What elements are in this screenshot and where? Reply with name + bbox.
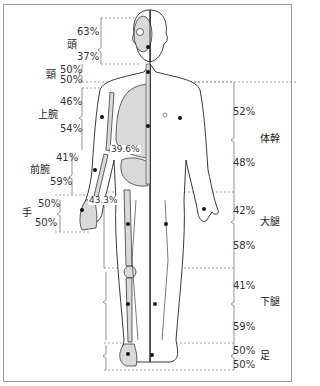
- forearm-bottom-pct: 59%: [50, 177, 72, 187]
- forearm-label: 前腕: [30, 165, 50, 175]
- lower-leg-bottom-pct: 59%: [233, 322, 255, 332]
- head-top-pct: 63%: [77, 27, 99, 37]
- lower-leg-top-pct: 41%: [233, 281, 255, 291]
- hand-label: 手: [22, 208, 32, 218]
- hip-label: 43.3%: [88, 196, 119, 205]
- upper-arm-bottom-pct: 54%: [60, 124, 82, 134]
- forearm-top-pct: 41%: [56, 153, 78, 163]
- foot-top-pct: 50%: [233, 346, 255, 356]
- head-bottom-pct: 37%: [77, 52, 99, 62]
- foot-bottom-pct: 50%: [233, 360, 255, 370]
- neck-bottom-pct: 50%: [60, 75, 82, 85]
- thigh-top-pct: 42%: [233, 206, 255, 216]
- lower-leg-label: 下腿: [260, 297, 280, 307]
- trunk-upper-label: 39.6%: [110, 145, 141, 154]
- upper-arm-label: 上腕: [38, 110, 58, 120]
- thigh-label: 大腿: [260, 217, 280, 227]
- trunk-top-pct: 52%: [233, 107, 255, 117]
- neck-label: 頸: [46, 70, 56, 80]
- foot-label: 足: [260, 351, 270, 361]
- trunk-label: 体幹: [260, 134, 280, 144]
- upper-arm-top-pct: 46%: [60, 97, 82, 107]
- hand-top-pct: 50%: [38, 199, 60, 209]
- trunk-bottom-pct: 48%: [233, 158, 255, 168]
- thigh-bottom-pct: 58%: [233, 241, 255, 251]
- hand-bottom-pct: 50%: [35, 218, 57, 228]
- head-label: 頭: [67, 40, 77, 50]
